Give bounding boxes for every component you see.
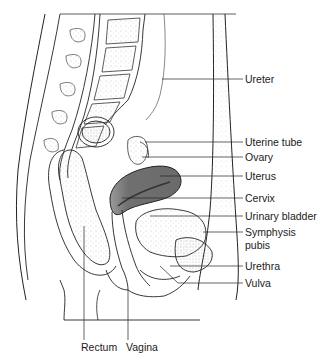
label-ovary: Ovary [245,151,273,163]
ureter [146,14,165,120]
pelvis-diagram [0,0,328,364]
label-rectum: Rectum [81,341,117,353]
label-urethra: Urethra [245,260,280,272]
label-symphysis: Symphysis [245,226,296,238]
label-urinary-bladder: Urinary bladder [245,210,317,222]
sigmoid-colon [78,117,114,147]
symphysis [175,238,212,272]
label-ureter: Ureter [245,73,274,85]
label-vagina: Vagina [126,341,158,353]
label-uterus: Uterus [245,170,276,182]
label-cervix: Cervix [245,192,275,204]
label-vulva: Vulva [245,277,271,289]
rectum-shape [49,150,116,275]
uterus [110,166,181,215]
ovary [128,136,149,164]
label-pubis: pubis [245,239,270,251]
posterior-spine [44,28,85,151]
perineum [60,270,200,320]
label-uterine-tube: Uterine tube [245,136,302,148]
